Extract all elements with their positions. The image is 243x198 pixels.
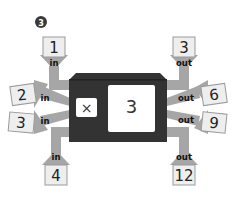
svg-text:3: 3 (38, 18, 44, 27)
svg-text:×: × (81, 100, 93, 116)
svg-text:in: in (50, 58, 59, 68)
output-label-2: out (178, 93, 194, 103)
svg-text:12: 12 (174, 167, 193, 185)
input-card-2: 2 (10, 83, 36, 105)
function-machine-diagram: 3 (0, 0, 243, 198)
svg-text:4: 4 (51, 167, 61, 185)
input-label-3: in (41, 116, 50, 126)
svg-text:1: 1 (49, 39, 59, 57)
operand-box: 3 (108, 85, 155, 132)
problem-number-badge: 3 (35, 16, 47, 28)
output-card-3: 9 (201, 112, 227, 133)
input-card-1: 1 in (43, 37, 65, 68)
output-card-4: 12 out (173, 152, 195, 185)
operator-box: × (76, 98, 97, 117)
input-card-3: 3 (8, 112, 35, 133)
svg-text:3: 3 (15, 114, 26, 133)
input-label-2: in (41, 93, 50, 103)
svg-text:out: out (176, 152, 192, 162)
svg-text:out: out (176, 58, 192, 68)
svg-text:3: 3 (126, 96, 137, 117)
input-card-4: 4 in (45, 152, 67, 185)
output-label-3: out (178, 115, 194, 125)
svg-text:3: 3 (179, 39, 189, 57)
svg-text:9: 9 (208, 114, 219, 133)
output-card-1: 3 out (173, 37, 195, 68)
output-card-2: 6 (201, 83, 227, 105)
function-machine: × 3 (69, 73, 167, 142)
svg-text:in: in (52, 152, 61, 162)
